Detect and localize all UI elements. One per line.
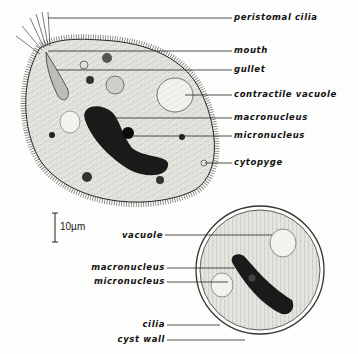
scale-bar-label: 10µm xyxy=(60,221,85,232)
label-peristomal-cilia: peristomal cilia xyxy=(234,12,318,22)
scale-bar xyxy=(52,213,58,242)
illustration xyxy=(0,0,358,354)
label-contractile-vacuole: contractile vacuole xyxy=(234,89,337,99)
label-cyst-wall: cyst wall xyxy=(118,334,165,344)
label-cyst-macronucleus: macronucleus xyxy=(91,262,165,272)
label-cyst-micronucleus: micronucleus xyxy=(94,276,165,286)
label-micronucleus: micronucleus xyxy=(234,130,305,140)
label-cytopyge: cytopyge xyxy=(234,157,283,167)
label-gullet: gullet xyxy=(234,64,265,74)
diagram-canvas: peristomal cilia mouth gullet contractil… xyxy=(0,0,358,354)
trophozoite xyxy=(16,12,232,202)
label-cyst-vacuole: vacuole xyxy=(122,230,163,240)
label-macronucleus: macronucleus xyxy=(234,112,308,122)
label-mouth: mouth xyxy=(234,45,268,55)
cyst xyxy=(165,206,324,340)
label-cyst-cilia: cilia xyxy=(142,319,165,329)
